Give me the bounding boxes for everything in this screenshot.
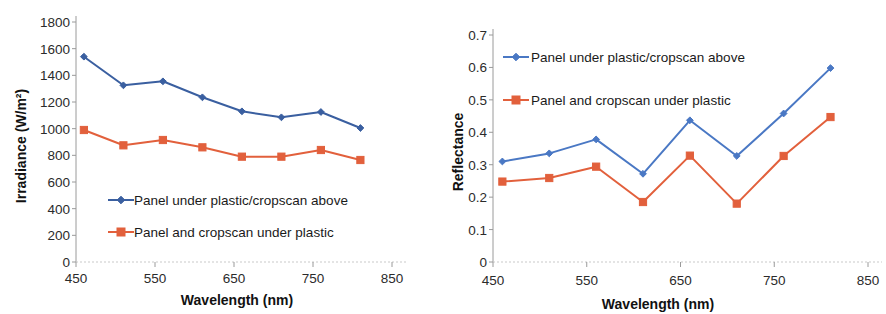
reflectance-chart-ytick: 0.3	[468, 158, 487, 173]
reflectance-chart-datapoint-s2	[499, 178, 506, 185]
reflectance-chart-svg: 00.10.20.30.40.50.60.7 450550650750850 P…	[443, 0, 886, 314]
irradiance-chart-ytick: 1400	[40, 68, 70, 83]
irradiance-chart-legend-marker-2	[117, 228, 125, 236]
irradiance-chart-ytick: 400	[47, 202, 70, 217]
irradiance-chart-series-line-1	[84, 57, 361, 128]
figure-container: 020040060080010001200140016001800 450550…	[0, 0, 886, 314]
reflectance-chart-ytick: 0.1	[468, 223, 487, 238]
irradiance-chart-datapoint-s2	[80, 126, 87, 133]
irradiance-chart-ytick: 1200	[40, 95, 70, 110]
irradiance-legend: Panel under plastic/cropscan abovePanel …	[108, 193, 348, 240]
irradiance-chart-ytick: 200	[47, 228, 70, 243]
reflectance-chart-datapoint-s2	[780, 152, 787, 159]
irradiance-chart-datapoint-s2	[238, 153, 245, 160]
irradiance-chart-xtick: 650	[223, 271, 246, 286]
irradiance-chart-xtick: 750	[302, 271, 325, 286]
irradiance-chart-datapoint-s1	[318, 109, 325, 116]
irradiance-chart-datapoint-s1	[199, 94, 206, 101]
irradiance-chart-legend-marker-1	[117, 196, 125, 204]
irradiance-chart: 020040060080010001200140016001800 450550…	[0, 0, 443, 314]
reflectance-chart-legend-label-2: Panel and cropscan under plastic	[531, 93, 731, 108]
reflectance-chart-ytick: 0.6	[468, 60, 487, 75]
irradiance-chart-datapoint-s2	[159, 136, 166, 143]
irradiance-x-ticklabels: 450550650750850	[65, 271, 404, 286]
irradiance-chart-datapoint-s1	[357, 125, 364, 132]
reflectance-chart-legend-marker-1	[512, 53, 520, 61]
reflectance-x-axis-title: Wavelength (nm)	[602, 296, 714, 312]
irradiance-chart-legend-label-1: Panel under plastic/cropscan above	[134, 193, 348, 208]
reflectance-chart-datapoint-s2	[546, 174, 553, 181]
irradiance-chart-xtick: 550	[144, 271, 167, 286]
reflectance-chart-datapoint-s2	[593, 163, 600, 170]
irradiance-chart-ytick: 1000	[40, 122, 70, 137]
reflectance-chart-ytick: 0.4	[468, 125, 487, 140]
reflectance-chart-datapoint-s2	[733, 200, 740, 207]
reflectance-chart-ytick: 0.7	[468, 28, 487, 43]
reflectance-chart-series-line-2	[502, 117, 830, 204]
irradiance-chart-xtick: 850	[381, 271, 404, 286]
irradiance-chart-datapoint-s2	[357, 156, 364, 163]
reflectance-chart-datapoint-s2	[639, 198, 646, 205]
irradiance-chart-xtick: 450	[65, 271, 88, 286]
irradiance-chart-datapoint-s2	[120, 142, 127, 149]
irradiance-chart-datapoint-s1	[278, 114, 285, 121]
reflectance-chart-xtick: 850	[857, 273, 880, 288]
reflectance-y-ticklabels: 00.10.20.30.40.50.60.7	[468, 28, 487, 270]
reflectance-legend: Panel under plastic/cropscan abovePanel …	[503, 50, 745, 108]
irradiance-y-axis-title: Irradiance (W/m²)	[13, 89, 29, 203]
irradiance-chart-datapoint-s1	[239, 108, 246, 115]
reflectance-chart-datapoint-s1	[546, 150, 553, 157]
reflectance-chart-ytick: 0.5	[468, 93, 487, 108]
reflectance-chart: 00.10.20.30.40.50.60.7 450550650750850 P…	[443, 0, 886, 314]
irradiance-chart-ytick: 1600	[40, 42, 70, 57]
irradiance-chart-ytick: 800	[47, 148, 70, 163]
irradiance-chart-datapoint-s2	[317, 146, 324, 153]
reflectance-chart-xtick: 450	[482, 273, 505, 288]
irradiance-chart-datapoint-s1	[160, 78, 167, 85]
reflectance-x-ticklabels: 450550650750850	[482, 273, 880, 288]
reflectance-chart-xtick: 550	[575, 273, 598, 288]
reflectance-chart-xtick: 650	[669, 273, 692, 288]
reflectance-chart-legend-label-1: Panel under plastic/cropscan above	[531, 50, 745, 65]
irradiance-chart-ytick: 600	[47, 175, 70, 190]
reflectance-chart-datapoint-s2	[827, 113, 834, 120]
reflectance-chart-datapoint-s2	[686, 152, 693, 159]
irradiance-chart-legend-label-2: Panel and cropscan under plastic	[134, 225, 334, 240]
irradiance-chart-svg: 020040060080010001200140016001800 450550…	[0, 0, 443, 314]
irradiance-plot	[80, 53, 364, 163]
irradiance-x-axis-title: Wavelength (nm)	[181, 292, 293, 308]
reflectance-chart-ytick: 0.2	[468, 190, 487, 205]
reflectance-chart-datapoint-s1	[499, 158, 506, 165]
reflectance-plot	[499, 65, 834, 208]
reflectance-chart-xtick: 750	[763, 273, 786, 288]
irradiance-chart-ytick: 0	[62, 255, 70, 270]
irradiance-chart-ytick: 1800	[40, 15, 70, 30]
reflectance-y-axis-title: Reflectance	[450, 112, 466, 191]
reflectance-chart-legend-marker-2	[512, 96, 520, 104]
irradiance-chart-datapoint-s2	[199, 144, 206, 151]
reflectance-chart-ytick: 0	[479, 255, 487, 270]
irradiance-y-ticklabels: 020040060080010001200140016001800	[40, 15, 70, 270]
irradiance-chart-datapoint-s2	[278, 153, 285, 160]
